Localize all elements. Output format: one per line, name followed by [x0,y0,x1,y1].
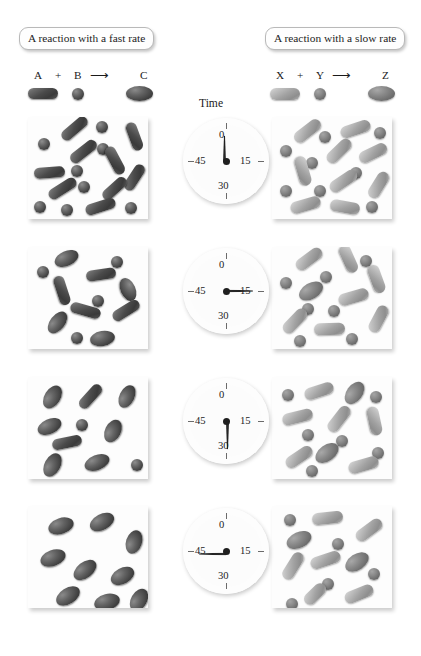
molecule-c [35,415,64,439]
clock-t45: 0153045 [183,508,269,594]
molecule-y [294,335,306,347]
equation-right-text: X + Y ⟶ Z [270,69,406,83]
molecule-c [46,514,76,537]
molecule-y [314,185,326,197]
clock-numeral-0: 0 [219,259,224,270]
clock-tick [226,513,227,519]
equation-legend-left: A + B ⟶ C [28,69,164,103]
molecule-x [366,170,392,201]
legend-molecule-a [28,88,58,99]
molecule-z [341,378,369,408]
molecule-y [332,538,344,550]
clock-numeral-30: 30 [218,310,229,321]
diagram-canvas: A reaction with a fast rate A reaction w… [0,0,421,656]
legend-molecule-z [368,86,395,101]
molecule-y [280,185,292,197]
clock-t0: 0153045 [183,118,269,204]
molecule-c [39,382,66,412]
time-caption: Time [181,97,241,110]
molecule-y [374,127,386,139]
molecule-c [126,586,148,608]
clock-t15: 0153045 [183,248,269,334]
clock-face: 0153045 [190,255,262,327]
molecule-x [353,516,384,543]
clock-numeral-15: 15 [240,155,251,166]
molecule-y [302,429,314,441]
molecule-b [71,165,83,177]
molecule-c [108,563,138,589]
molecule-b [61,204,73,216]
molecule-b [38,138,50,150]
molecule-x [289,195,322,215]
reaction-panel-right-t15 [272,247,392,349]
eq-right-product: Z [382,69,389,82]
molecule-b [96,121,108,133]
eq-right-reactant-b: Y [316,69,324,82]
molecule-y [346,333,358,345]
molecule-a [34,166,66,179]
clock-numeral-15: 15 [240,545,251,556]
clock-numeral-15: 15 [240,415,251,426]
reaction-panel-left-t45 [28,506,148,608]
molecule-a [77,382,105,411]
molecule-c [82,451,112,475]
molecule-x [366,263,387,294]
molecule-b [37,266,49,278]
molecule-x [292,117,324,145]
molecule-y [320,271,332,283]
molecule-x [301,581,328,608]
fast-rate-label: A reaction with a fast rate [19,27,154,50]
molecule-a [124,121,144,152]
molecule-a [59,117,90,143]
molecule-x [347,455,380,475]
molecule-b [125,202,137,214]
clock-numeral-0: 0 [219,129,224,140]
reaction-panel-left-t15 [28,247,148,349]
clock-numeral-45: 45 [195,285,206,296]
clock-pivot [223,288,230,295]
molecule-y [282,389,294,401]
molecule-x [357,141,389,165]
eq-right-arrow: ⟶ [332,69,351,82]
molecule-c [70,556,100,585]
molecule-a [68,138,99,166]
clock-face: 0153045 [190,125,262,197]
legend-molecule-c [126,86,153,101]
clock-pivot [223,548,230,555]
clock-face: 0153045 [190,385,262,457]
molecule-x [314,322,345,335]
molecule-x [339,119,372,140]
eq-right-reactant-a: X [276,69,284,82]
molecule-x [293,247,324,273]
molecule-b [131,459,143,471]
legend-molecule-y [314,88,326,100]
molecule-y [368,568,380,580]
molecule-x [325,403,353,434]
clock-pivot [223,158,230,165]
eq-left-arrow: ⟶ [90,69,109,82]
molecule-y [366,201,378,213]
clock-numeral-0: 0 [219,389,224,400]
molecule-c [38,546,68,570]
molecule-y [319,131,331,143]
molecule-y [280,145,292,157]
clock-tick [258,291,264,292]
molecule-c [89,329,116,348]
molecule-c [101,417,126,446]
reaction-panel-right-t45 [272,506,392,608]
legend-molecule-b [72,88,84,100]
molecule-a [103,145,127,177]
molecule-y [370,391,382,403]
clock-tick [258,551,264,552]
molecule-b [76,419,88,431]
molecule-y [328,305,340,317]
molecule-c [44,308,71,337]
clock-tick [188,551,194,552]
equation-left-text: A + B ⟶ C [28,69,164,83]
clock-tick [226,383,227,389]
molecule-c [87,509,117,535]
clock-tick [258,161,264,162]
molecule-y [306,465,318,477]
reaction-panel-left-t0 [28,117,148,219]
molecule-a [84,196,117,216]
